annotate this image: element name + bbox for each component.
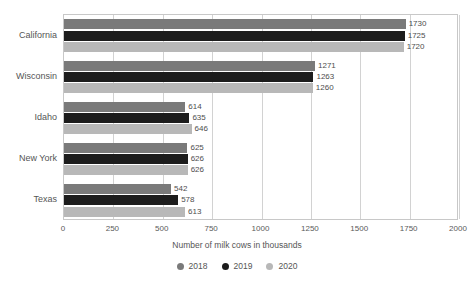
legend-item-2019[interactable]: 2019 [222,262,253,271]
bar-row: 1260 [64,83,459,93]
x-axis-tick-2000: 2000 [449,224,467,233]
legend-item-2018[interactable]: 2018 [177,262,208,271]
bar-row: 1725 [64,31,459,41]
y-axis-labels: CaliforniaWisconsinIdahoNew YorkTexas [0,14,57,220]
bar-new-york-2020[interactable] [64,165,188,175]
legend-swatch-icon [266,263,273,270]
y-axis-tick-texas: Texas [0,194,57,204]
x-axis-ticks: 025050075010001250150017502000 [63,222,458,238]
bar-row: 1271 [64,61,459,71]
bar-idaho-2020[interactable] [64,124,192,134]
bar-row: 626 [64,154,459,164]
bar-value-label: 542 [174,185,187,193]
bar-row: 542 [64,184,459,194]
x-axis-tick-500: 500 [155,224,168,233]
bar-value-label: 1263 [316,73,334,81]
y-axis-tick-idaho: Idaho [0,112,57,122]
bar-new-york-2018[interactable] [64,143,187,153]
bar-value-label: 613 [188,208,201,216]
bar-wisconsin-2019[interactable] [64,72,313,82]
bar-value-label: 1260 [316,84,334,92]
bar-wisconsin-2018[interactable] [64,61,315,71]
bar-texas-2019[interactable] [64,195,178,205]
y-axis-tick-california: California [0,30,57,40]
bar-california-2018[interactable] [64,19,406,29]
bar-value-label: 635 [192,114,205,122]
x-axis-tick-750: 750 [204,224,217,233]
bar-row: 578 [64,195,459,205]
legend-swatch-icon [222,263,229,270]
bar-value-label: 626 [191,166,204,174]
y-axis-tick-new-york: New York [0,153,57,163]
bar-idaho-2019[interactable] [64,113,189,123]
legend-label: 2018 [189,262,208,271]
bar-value-label: 1271 [318,62,336,70]
bar-row: 635 [64,113,459,123]
bar-texas-2018[interactable] [64,184,171,194]
bar-row: 614 [64,102,459,112]
bar-value-label: 614 [188,103,201,111]
chart-legend: 201820192020 [0,262,474,271]
legend-item-2020[interactable]: 2020 [266,262,297,271]
bar-wisconsin-2020[interactable] [64,83,313,93]
y-axis-tick-wisconsin: Wisconsin [0,71,57,81]
bar-value-label: 578 [181,196,194,204]
plot-area: 1730172517201271126312606146356466256266… [63,14,458,220]
x-axis-tick-1750: 1750 [400,224,418,233]
bar-row: 1730 [64,19,459,29]
bar-row: 626 [64,165,459,175]
bar-idaho-2018[interactable] [64,102,185,112]
gridline [459,15,460,219]
bar-value-label: 1730 [409,20,427,28]
x-axis-title: Number of milk cows in thousands [0,240,474,250]
bar-value-label: 625 [190,144,203,152]
bar-value-label: 646 [195,125,208,133]
bar-value-label: 626 [191,155,204,163]
bar-row: 625 [64,143,459,153]
bar-row: 646 [64,124,459,134]
bar-chart: CaliforniaWisconsinIdahoNew YorkTexas 17… [0,0,474,287]
bar-new-york-2019[interactable] [64,154,188,164]
legend-label: 2020 [278,262,297,271]
bar-row: 613 [64,207,459,217]
x-axis-tick-250: 250 [106,224,119,233]
bar-california-2019[interactable] [64,31,405,41]
x-axis-tick-1000: 1000 [252,224,270,233]
bar-texas-2020[interactable] [64,207,185,217]
x-axis-tick-1500: 1500 [350,224,368,233]
x-axis-tick-0: 0 [61,224,65,233]
bar-value-label: 1720 [407,43,425,51]
x-axis-tick-1250: 1250 [301,224,319,233]
bar-california-2020[interactable] [64,42,404,52]
bar-row: 1263 [64,72,459,82]
legend-label: 2019 [234,262,253,271]
bar-row: 1720 [64,42,459,52]
legend-swatch-icon [177,263,184,270]
bar-value-label: 1725 [408,32,426,40]
